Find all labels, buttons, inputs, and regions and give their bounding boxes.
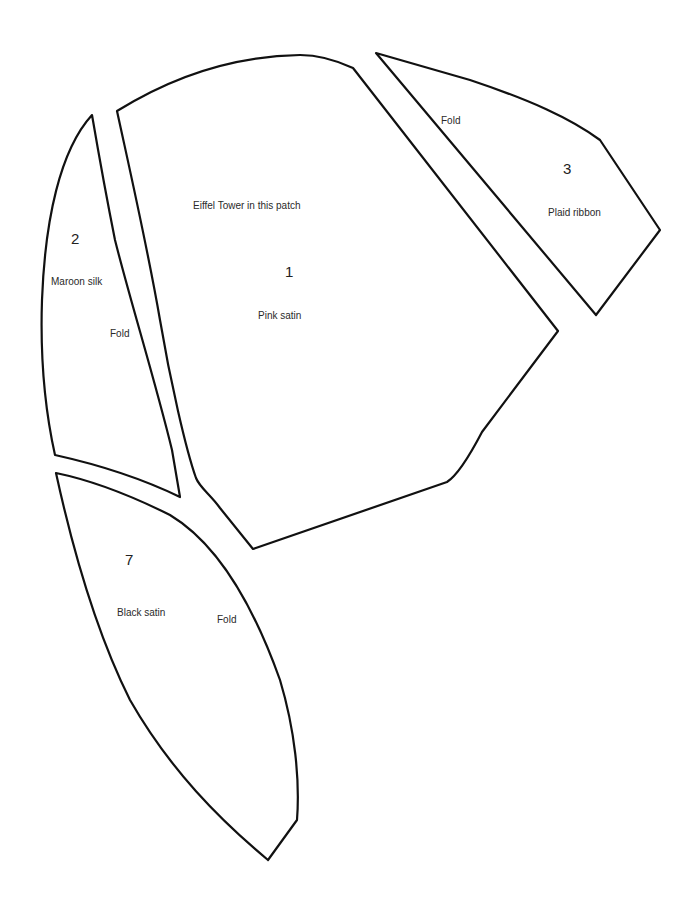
piece-1-material: Pink satin (258, 310, 301, 321)
piece-3-material: Plaid ribbon (548, 207, 601, 218)
piece-2-number: 2 (71, 230, 79, 247)
pattern-diagram (0, 0, 698, 904)
piece-1-note: Eiffel Tower in this patch (193, 200, 300, 211)
piece-3-number: 3 (563, 160, 571, 177)
piece-7-fold-label: Fold (217, 614, 236, 625)
piece-3-fold-label: Fold (441, 115, 460, 126)
piece-2-fold-label: Fold (110, 328, 129, 339)
piece-2-material: Maroon silk (51, 276, 102, 287)
piece-7-number: 7 (125, 551, 133, 568)
piece-1-number: 1 (285, 263, 293, 280)
piece-7-material: Black satin (117, 607, 165, 618)
